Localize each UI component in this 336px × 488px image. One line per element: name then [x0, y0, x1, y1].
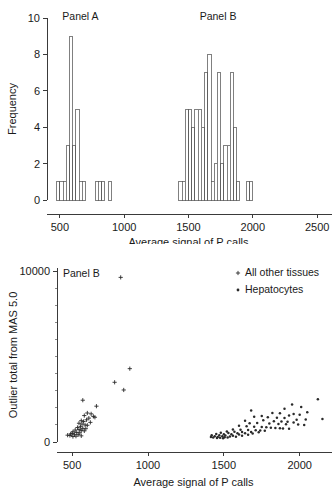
scatter-point — [298, 413, 301, 416]
scatter-point — [277, 423, 280, 426]
scatter-point — [88, 420, 92, 424]
histogram-bar — [76, 109, 79, 200]
panel-title: Panel A — [62, 10, 98, 22]
scatter-point — [81, 398, 85, 402]
scatter-x-tick-label: 2000 — [287, 459, 311, 471]
scatter-y-tick-label: 0 — [44, 436, 50, 448]
hist-y-axis-title: Frequency — [6, 83, 18, 135]
histogram-bar — [179, 182, 182, 200]
scatter-point — [268, 422, 271, 425]
scatter-point — [238, 433, 241, 436]
histogram-bar — [201, 127, 204, 200]
scatter-point — [215, 433, 218, 436]
scatter-point — [279, 412, 282, 415]
scatter-point — [238, 425, 241, 428]
scatter-point — [261, 415, 264, 418]
scatter-panel: 010000500100015002000Panel BAll other ti… — [0, 244, 336, 488]
scatter-y-tick-label: 10000 — [19, 265, 50, 277]
hist-y-tick-label: 8 — [34, 48, 40, 60]
histogram-bar — [224, 145, 227, 200]
scatter-point — [222, 437, 225, 440]
scatter-point — [279, 427, 282, 430]
scatter-point — [244, 419, 247, 422]
scatter-point — [235, 435, 238, 438]
hist-x-axis-title: Average signal of P calls — [128, 236, 249, 244]
scatter-point — [297, 423, 300, 426]
scatter-point — [212, 436, 215, 439]
histogram-bar — [237, 182, 240, 200]
hist-y-tick-label: 2 — [34, 158, 40, 170]
histogram-bar — [195, 109, 198, 200]
histogram-bar — [95, 182, 98, 200]
hist-x-tick-label: 1000 — [112, 221, 136, 233]
scatter-point — [317, 398, 320, 401]
scatter-point — [239, 428, 242, 431]
histogram-bar — [108, 182, 111, 200]
scatter-point — [94, 404, 98, 408]
scatter-point — [251, 432, 254, 435]
scatter-point — [295, 419, 298, 422]
histogram-bar — [214, 164, 217, 200]
scatter-point — [210, 436, 213, 439]
scatter-point — [283, 407, 286, 410]
scatter-point — [256, 422, 259, 425]
histogram-bar — [192, 127, 195, 200]
scatter-point — [241, 431, 244, 434]
histogram-bar — [102, 182, 105, 200]
scatter-point — [233, 431, 236, 434]
scatter-point — [276, 417, 279, 420]
histogram-bar — [66, 145, 69, 200]
scatter-point — [244, 432, 247, 435]
scatter-point — [113, 380, 117, 384]
figure-container: 02468105001000150020002500Panel APanel B… — [0, 0, 336, 488]
scatter-point — [247, 433, 250, 436]
scatter-y-axis-title: Outlier total from MAS 5.0 — [7, 292, 19, 419]
scatter-point — [273, 420, 276, 423]
scatter-point — [265, 426, 268, 429]
scatter-point — [232, 434, 235, 437]
histogram-bar — [185, 109, 188, 200]
scatter-point — [306, 411, 309, 414]
hist-x-tick-label: 500 — [51, 221, 69, 233]
histogram-bar — [208, 54, 211, 200]
histogram-bar — [182, 182, 185, 200]
hist-x-tick-label: 1500 — [176, 221, 200, 233]
scatter-point — [128, 367, 132, 371]
histogram-panel: 02468105001000150020002500Panel APanel B… — [0, 0, 336, 244]
histogram-bar — [70, 36, 73, 200]
scatter-point — [253, 425, 256, 428]
scatter-point — [264, 429, 267, 432]
hist-y-tick-label: 10 — [28, 12, 40, 24]
scatter-point — [220, 432, 223, 435]
scatter-point — [271, 412, 274, 415]
panel-title: Panel B — [63, 267, 100, 279]
scatter-point — [288, 428, 291, 431]
scatter-point — [232, 428, 235, 431]
histogram-bar — [82, 182, 85, 200]
hist-y-tick-label: 0 — [34, 194, 40, 206]
scatter-point — [216, 437, 219, 440]
scatter-point — [286, 421, 289, 424]
scatter-point — [82, 413, 86, 417]
scatter-point — [119, 275, 123, 279]
scatter-point — [89, 412, 93, 416]
scatter-point — [122, 388, 126, 392]
scatter-point — [245, 425, 248, 428]
histogram-svg: 02468105001000150020002500Panel APanel B… — [0, 0, 336, 244]
scatter-point — [79, 419, 83, 423]
scatter-point — [292, 413, 295, 416]
histogram-bar — [60, 182, 63, 200]
histogram-bar — [189, 109, 192, 200]
scatter-point — [247, 429, 250, 432]
scatter-point — [285, 423, 288, 426]
legend-label: All other tissues — [245, 266, 319, 278]
scatter-point — [250, 409, 253, 412]
histogram-bar — [63, 182, 66, 200]
panel-title: Panel B — [200, 10, 237, 22]
scatter-point — [283, 417, 286, 420]
histogram-bar — [205, 73, 208, 200]
scatter-point — [292, 421, 295, 424]
scatter-point — [304, 418, 307, 421]
scatter-point — [227, 432, 230, 435]
histogram-bar — [227, 145, 230, 200]
